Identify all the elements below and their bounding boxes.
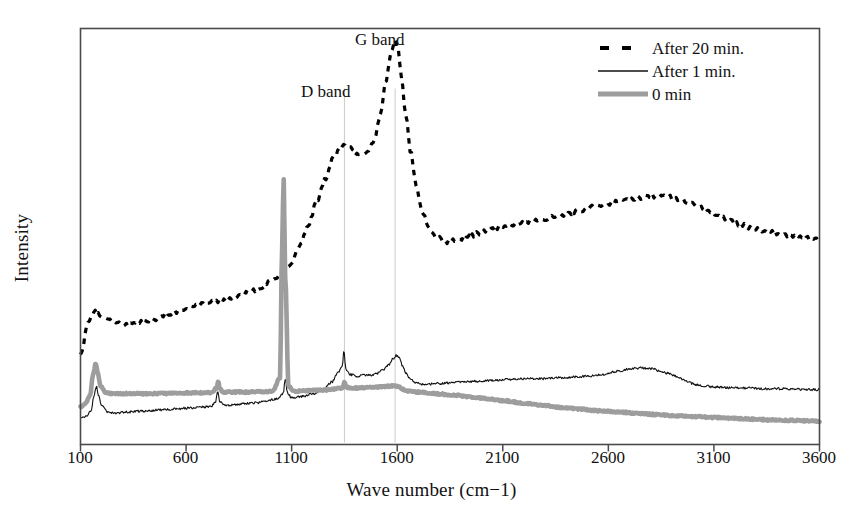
x-tick-label-100: 100 — [45, 448, 115, 468]
legend-item-after-20-min: After 20 min. — [596, 38, 796, 59]
legend-swatch-solid-thick — [596, 84, 648, 104]
legend-item-after-1-min: After 1 min. — [596, 61, 796, 82]
legend-item-0-min: 0 min — [596, 84, 796, 105]
x-tick-label-1600: 1600 — [362, 448, 432, 468]
legend-label-after-20-min: After 20 min. — [652, 38, 744, 59]
x-tick-label-2600: 2600 — [573, 448, 643, 468]
raman-spectrum-figure: D band G band 100 600 1100 1600 2100 260… — [0, 0, 863, 522]
x-tick-label-3600: 3600 — [784, 448, 854, 468]
x-tick-label-1100: 1100 — [256, 448, 326, 468]
legend-swatch-dashed — [596, 38, 648, 58]
legend-label-0-min: 0 min — [652, 84, 691, 105]
series-line-after-1-min — [81, 352, 820, 418]
legend: After 20 min. After 1 min. 0 min — [596, 38, 796, 107]
y-axis-title: Intensity — [11, 178, 33, 318]
x-tick-label-600: 600 — [151, 448, 221, 468]
g-band-annotation: G band — [355, 30, 405, 50]
d-band-annotation: D band — [301, 82, 351, 102]
legend-label-after-1-min: After 1 min. — [652, 61, 736, 82]
legend-swatch-solid-thin — [596, 61, 648, 81]
x-tick-label-3100: 3100 — [678, 448, 748, 468]
x-tick-label-2100: 2100 — [467, 448, 537, 468]
x-axis-title: Wave number (cm−1) — [0, 479, 863, 501]
